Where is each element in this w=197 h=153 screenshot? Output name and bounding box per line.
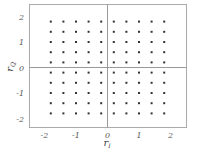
data-point <box>88 21 90 23</box>
data-point <box>62 21 64 23</box>
data-point <box>75 31 77 33</box>
y-tick-label: -1 <box>16 89 24 98</box>
data-point <box>88 82 90 84</box>
data-point <box>75 21 77 23</box>
data-point <box>50 112 52 114</box>
data-point <box>113 31 115 33</box>
data-point <box>163 21 165 23</box>
data-point <box>75 41 77 43</box>
data-point <box>50 51 52 53</box>
data-point <box>50 41 52 43</box>
data-point <box>50 102 52 104</box>
data-point <box>163 82 165 84</box>
y-tick-label: 1 <box>19 38 24 47</box>
data-point <box>138 31 140 33</box>
data-point <box>88 51 90 53</box>
data-point <box>113 72 115 74</box>
data-point <box>151 92 153 94</box>
data-point <box>163 41 165 43</box>
data-point <box>62 92 64 94</box>
data-point <box>88 72 90 74</box>
data-point <box>125 82 127 84</box>
data-point <box>113 112 115 114</box>
data-point <box>138 41 140 43</box>
data-point <box>62 31 64 33</box>
x-tick-label: 2 <box>167 131 173 140</box>
data-point <box>62 72 64 74</box>
data-point <box>113 102 115 104</box>
y-tick-label: -2 <box>16 115 24 124</box>
data-point <box>138 51 140 53</box>
data-point <box>113 21 115 23</box>
data-point <box>50 61 52 63</box>
data-point <box>100 82 102 84</box>
y-axis-label: rQ <box>4 62 16 72</box>
data-point <box>113 61 115 63</box>
y-tick-labels: -2-1012 <box>16 13 24 124</box>
data-point <box>100 72 102 74</box>
data-point <box>62 112 64 114</box>
data-point <box>88 61 90 63</box>
data-point <box>88 92 90 94</box>
data-point <box>75 61 77 63</box>
data-point <box>138 61 140 63</box>
data-point <box>138 112 140 114</box>
data-point <box>75 72 77 74</box>
data-point <box>75 102 77 104</box>
data-point <box>50 72 52 74</box>
y-tick-label: 2 <box>18 13 24 22</box>
data-point <box>125 72 127 74</box>
data-point <box>163 72 165 74</box>
data-point <box>138 82 140 84</box>
data-point <box>62 102 64 104</box>
data-point <box>163 92 165 94</box>
data-point <box>163 112 165 114</box>
data-point <box>151 112 153 114</box>
data-point <box>151 72 153 74</box>
data-point <box>50 31 52 33</box>
data-point <box>50 21 52 23</box>
data-point <box>75 112 77 114</box>
x-tick-label: -2 <box>41 131 49 140</box>
data-point <box>75 92 77 94</box>
data-point <box>125 51 127 53</box>
data-point <box>138 72 140 74</box>
data-point <box>163 51 165 53</box>
data-point <box>125 112 127 114</box>
data-point <box>62 51 64 53</box>
data-point <box>113 92 115 94</box>
data-point <box>113 41 115 43</box>
data-point <box>100 51 102 53</box>
data-point <box>100 41 102 43</box>
data-point <box>62 61 64 63</box>
data-point <box>125 41 127 43</box>
data-point <box>88 112 90 114</box>
data-point <box>163 102 165 104</box>
data-point <box>163 61 165 63</box>
data-point <box>125 102 127 104</box>
data-point <box>75 82 77 84</box>
data-point <box>151 51 153 53</box>
x-tick-label: 1 <box>136 131 141 140</box>
data-point <box>125 21 127 23</box>
data-point <box>88 31 90 33</box>
data-point <box>151 61 153 63</box>
data-point <box>100 112 102 114</box>
data-point <box>151 102 153 104</box>
data-point <box>125 92 127 94</box>
data-point <box>151 41 153 43</box>
data-point <box>151 82 153 84</box>
data-point <box>62 41 64 43</box>
data-point <box>138 102 140 104</box>
data-point <box>88 41 90 43</box>
data-point <box>88 102 90 104</box>
data-point <box>50 92 52 94</box>
data-point <box>125 31 127 33</box>
data-point <box>75 51 77 53</box>
data-point <box>151 21 153 23</box>
data-point <box>100 21 102 23</box>
data-point <box>138 21 140 23</box>
data-point <box>113 51 115 53</box>
data-point <box>113 82 115 84</box>
data-point <box>100 92 102 94</box>
